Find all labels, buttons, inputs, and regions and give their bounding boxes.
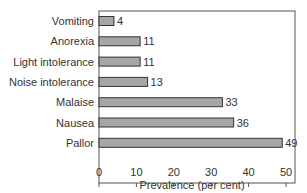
data-label: 13 (151, 76, 163, 88)
bar-row: Noise intolerance13 (9, 76, 163, 88)
category-label: Pallor (66, 137, 94, 149)
bar-row: Nausea36 (56, 117, 249, 129)
x-axis-title: Prevalence (per cent) (139, 179, 244, 191)
data-label: 36 (237, 117, 249, 129)
bar (99, 77, 148, 86)
bar-row: Malaise33 (56, 96, 238, 108)
bar-row: Light intolerance11 (13, 56, 154, 68)
x-tick-label: 50 (280, 166, 292, 178)
x-tick-label: 0 (96, 166, 102, 178)
x-tick-label: 40 (242, 166, 254, 178)
bar (99, 138, 282, 147)
category-label: Malaise (56, 96, 94, 108)
data-label: 4 (117, 15, 123, 27)
bar (99, 17, 114, 26)
category-label: Noise intolerance (9, 76, 94, 88)
bars-group: Vomiting4Anorexia11Light intolerance11No… (9, 15, 298, 149)
bar (99, 57, 140, 66)
category-label: Light intolerance (13, 56, 94, 68)
bar (99, 37, 140, 46)
x-tick-label: 10 (130, 166, 142, 178)
bar (99, 118, 234, 127)
bar (99, 98, 222, 107)
category-label: Anorexia (51, 35, 95, 47)
data-label: 11 (143, 35, 154, 47)
data-label: 33 (225, 96, 237, 108)
category-label: Nausea (56, 117, 95, 129)
bar-row: Vomiting4 (52, 15, 123, 27)
bar-row: Anorexia11 (51, 35, 155, 47)
category-label: Vomiting (52, 15, 94, 27)
data-label: 49 (285, 137, 297, 149)
x-tick-label: 30 (205, 166, 217, 178)
data-label: 11 (143, 56, 154, 68)
x-tick-label: 20 (168, 166, 180, 178)
bar-row: Pallor49 (66, 137, 298, 149)
bar-chart: Vomiting4Anorexia11Light intolerance11No… (0, 0, 307, 193)
